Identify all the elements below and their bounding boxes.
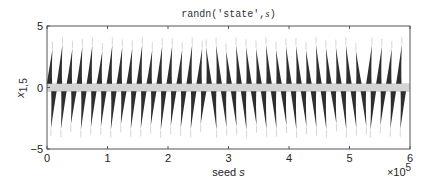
- x-tick-label: 1: [104, 152, 110, 164]
- chart: 0123456 −505 randn('state',s) seed s ×10…: [0, 0, 428, 188]
- zero-band: [47, 83, 410, 92]
- chart-title: randn('state',s): [181, 7, 275, 20]
- y-tick-label: 5: [37, 20, 43, 32]
- x-tick-label: 3: [225, 152, 231, 164]
- x-tick-label: 4: [286, 152, 292, 164]
- y-tick-label: −5: [30, 143, 43, 155]
- x-tick-label: 5: [346, 152, 352, 164]
- x-tick-label: 2: [165, 152, 171, 164]
- x-axis-label: seed s: [212, 166, 245, 178]
- y-tick-label: 0: [37, 82, 43, 94]
- x-tick-label: 0: [44, 152, 50, 164]
